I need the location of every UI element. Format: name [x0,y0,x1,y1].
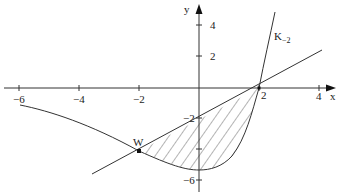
curve-label: K−2 [274,30,290,45]
y-tick-label: 4 [210,19,216,31]
curve-label-sub: −2 [282,36,291,45]
x-tick-label: 4 [316,90,322,102]
x-axis: −6 −4 −2 2 4 x [4,85,336,106]
point-w-marker [137,149,141,153]
x-tick-label: 2 [261,89,267,101]
x-tick-label: −2 [133,93,145,105]
shaded-region [130,80,270,180]
function-plot: −6 −4 −2 2 4 x 4 2 −2 −6 y W K−2 [0,0,341,192]
y-axis-label: y [184,3,190,15]
y-axis-arrow-icon [196,4,203,14]
curve-label-main: K [274,30,282,42]
y-tick-label: −6 [183,174,195,186]
y-tick-label: 2 [210,50,216,62]
x-axis-label: x [330,90,336,102]
x-tick-label: −6 [13,93,25,105]
point-w-label: W [133,136,144,148]
intersection-marker [258,87,261,90]
x-tick-label: −4 [73,93,85,105]
